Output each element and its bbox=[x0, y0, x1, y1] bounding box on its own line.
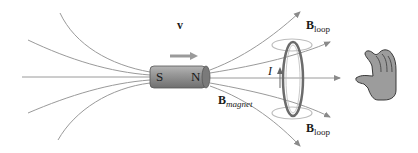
b-magnet-main: B bbox=[218, 93, 226, 107]
b-loop-top-label: Bloop bbox=[306, 18, 330, 33]
field-lines-left bbox=[22, 13, 150, 140]
b-loop-top-main: B bbox=[306, 18, 314, 32]
hand-icon bbox=[356, 50, 396, 100]
velocity-arrow bbox=[170, 52, 198, 60]
south-pole-label: S bbox=[156, 69, 163, 85]
b-loop-bottom-main: B bbox=[306, 121, 314, 135]
b-loop-bottom-label: Bloop bbox=[306, 121, 330, 136]
current-label: I bbox=[268, 64, 272, 79]
b-magnet-sub: magnet bbox=[226, 99, 253, 109]
north-pole-label: N bbox=[191, 69, 200, 85]
b-loop-bottom-sub: loop bbox=[314, 127, 330, 137]
diagram-canvas bbox=[0, 0, 418, 153]
velocity-label: v bbox=[177, 18, 183, 33]
magnet-loop-diagram: v S N I Bmagnet Bloop Bloop bbox=[0, 0, 418, 153]
b-magnet-label: Bmagnet bbox=[218, 93, 253, 108]
b-loop-top-sub: loop bbox=[314, 24, 330, 34]
